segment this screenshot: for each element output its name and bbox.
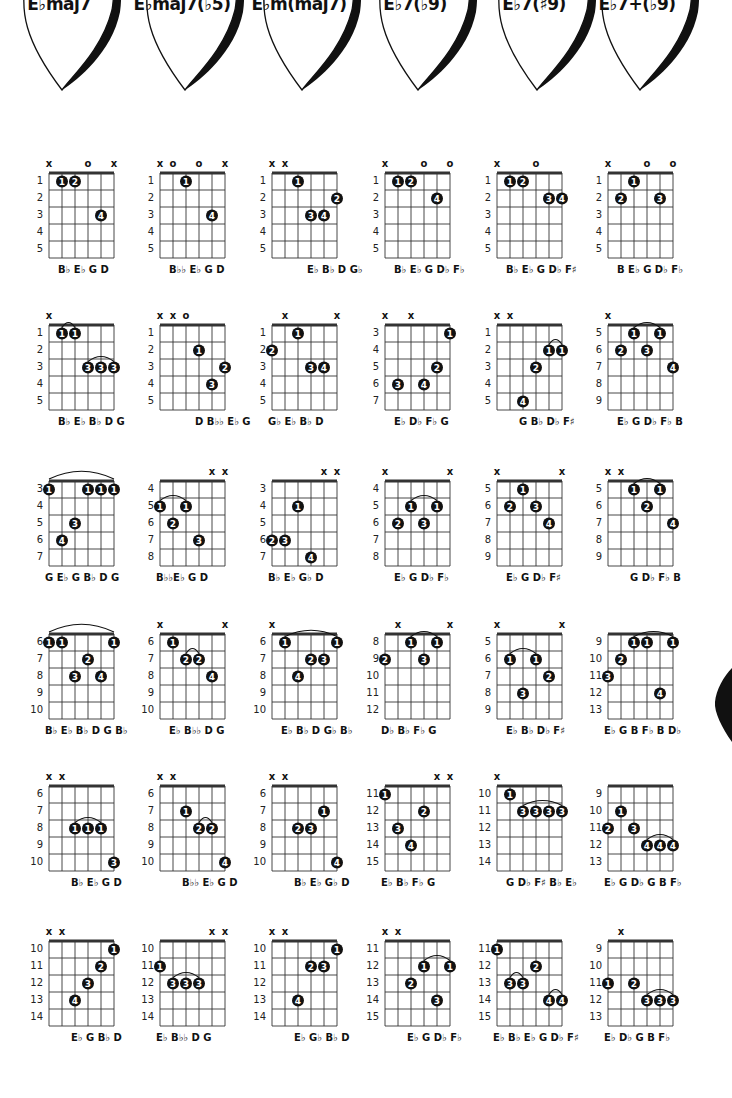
fret-number: 14	[363, 839, 379, 850]
fret-number: 14	[250, 1011, 266, 1022]
svg-text:1: 1	[59, 638, 65, 648]
svg-text:2: 2	[546, 672, 552, 682]
fret-number: 6	[138, 636, 154, 647]
chord-note-names: E♭ G D♭ F♭	[407, 1032, 462, 1043]
chord-diagram: 111234678910B♭ E♭ B♭ D G B♭	[19, 614, 129, 744]
svg-text:4: 4	[209, 672, 215, 682]
svg-text:1: 1	[494, 945, 500, 955]
svg-text:1: 1	[98, 824, 104, 834]
svg-text:3: 3	[520, 689, 526, 699]
fret-number: 15	[363, 1011, 379, 1022]
fret-number: 11	[586, 822, 602, 833]
svg-text:3: 3	[183, 979, 189, 989]
svg-text:1: 1	[72, 824, 78, 834]
svg-text:2: 2	[222, 363, 228, 373]
fret-number: 1	[138, 327, 154, 338]
fret-number: 5	[138, 243, 154, 254]
fret-number: 8	[27, 822, 43, 833]
fret-number: 7	[27, 653, 43, 664]
fret-number: 6	[250, 636, 266, 647]
chord-note-names: G D♭ F♯ B♭ E♭	[506, 877, 577, 888]
chord-pick-label: E♭7+(♭9)	[586, 0, 688, 14]
svg-text:4: 4	[209, 211, 215, 221]
fret-number: 8	[250, 670, 266, 681]
svg-text:1: 1	[507, 655, 513, 665]
fret-number: 6	[475, 653, 491, 664]
chord-diagram: 1234xo12345B♭ E♭ G D♭ F♯	[467, 153, 577, 283]
fret-number: 13	[586, 1011, 602, 1022]
fret-number: 3	[138, 361, 154, 372]
svg-text:4: 4	[334, 858, 340, 868]
fret-number: 3	[250, 483, 266, 494]
fret-number: 3	[363, 327, 379, 338]
chord-diagram: 1234xx12345G♭ E♭ B♭ D	[242, 305, 352, 435]
muted-string-marker: x	[380, 310, 390, 321]
fret-number: 14	[27, 1011, 43, 1022]
chord-diagram: 1124xx56789G D♭ F♭ B	[578, 461, 688, 591]
muted-string-marker: x	[380, 466, 390, 477]
fret-number: 6	[586, 344, 602, 355]
muted-string-marker: x	[207, 926, 217, 937]
svg-text:1: 1	[295, 177, 301, 187]
chord-diagram: 11234x678910E♭ B♭ D G♭ B♭	[242, 614, 352, 744]
muted-string-marker: x	[616, 926, 626, 937]
muted-string-marker: x	[220, 158, 230, 169]
svg-text:4: 4	[222, 858, 228, 868]
chord-note-names: E♭ G D♭ F♯	[506, 572, 561, 583]
fret-number: 10	[138, 943, 154, 954]
svg-text:2: 2	[618, 655, 624, 665]
fret-number: 13	[138, 994, 154, 1005]
svg-text:2: 2	[269, 346, 275, 356]
fret-number: 12	[586, 839, 602, 850]
chord-diagram: 11333x12345B♭ E♭ B♭ D G	[19, 305, 129, 435]
fret-number: 5	[475, 483, 491, 494]
svg-text:1: 1	[520, 485, 526, 495]
open-string-marker: o	[668, 158, 678, 169]
svg-text:1: 1	[183, 177, 189, 187]
chord-note-names: E♭ G D♭ F♭ B	[617, 416, 683, 427]
svg-text:2: 2	[395, 519, 401, 529]
svg-text:1: 1	[295, 502, 301, 512]
svg-text:2: 2	[196, 655, 202, 665]
muted-string-marker: x	[57, 926, 67, 937]
guitar-pick-icon	[131, 0, 251, 100]
fret-number: 10	[250, 943, 266, 954]
muted-string-marker: x	[332, 466, 342, 477]
fret-number: 5	[586, 243, 602, 254]
chord-note-names: B♭ E♭ B♭ D G	[58, 416, 125, 427]
fret-number: 5	[250, 395, 266, 406]
fret-number: 1	[27, 327, 43, 338]
fret-number: 10	[586, 960, 602, 971]
chord-diagram: 124xox12345B♭ E♭ G D	[19, 153, 129, 283]
svg-text:3: 3	[559, 807, 565, 817]
open-string-marker: o	[194, 158, 204, 169]
fret-number: 4	[27, 500, 43, 511]
fret-number: 4	[363, 226, 379, 237]
fret-number: 12	[250, 977, 266, 988]
chord-note-names: E♭ G B♭ D	[71, 1032, 122, 1043]
svg-text:3: 3	[111, 858, 117, 868]
fret-number: 3	[586, 209, 602, 220]
svg-text:1: 1	[321, 807, 327, 817]
fret-number: 3	[27, 361, 43, 372]
svg-text:4: 4	[546, 519, 552, 529]
fret-number: 9	[586, 551, 602, 562]
fret-number: 5	[475, 636, 491, 647]
muted-string-marker: x	[380, 926, 390, 937]
svg-text:2: 2	[382, 655, 388, 665]
svg-text:3: 3	[308, 824, 314, 834]
svg-text:2: 2	[170, 519, 176, 529]
svg-text:1: 1	[657, 485, 663, 495]
svg-text:1: 1	[507, 177, 513, 187]
svg-text:3: 3	[546, 807, 552, 817]
fret-number: 7	[27, 551, 43, 562]
svg-text:3: 3	[321, 655, 327, 665]
fret-number: 9	[363, 653, 379, 664]
fret-number: 6	[27, 636, 43, 647]
svg-text:4: 4	[559, 996, 565, 1006]
muted-string-marker: x	[220, 466, 230, 477]
svg-text:1: 1	[657, 329, 663, 339]
fret-number: 8	[363, 636, 379, 647]
muted-string-marker: x	[492, 310, 502, 321]
svg-text:3: 3	[533, 502, 539, 512]
